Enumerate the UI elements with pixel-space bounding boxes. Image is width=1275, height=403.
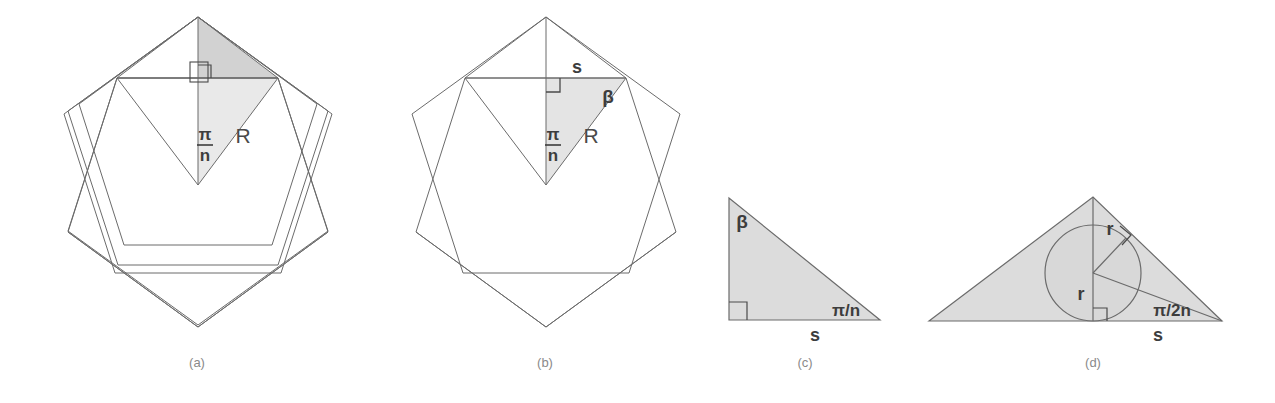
panel-a-inner-diag-left (68, 232, 198, 327)
panel-a-pi-denominator: n (200, 146, 210, 165)
panel-a: π n R (64, 17, 332, 327)
caption-c: (c) (797, 355, 812, 370)
panel-b: s β π n R (412, 17, 680, 327)
panel-a-radius-left (117, 78, 198, 185)
panel-b-pi-denominator: n (548, 146, 558, 165)
panel-c-label-s: s (810, 325, 820, 345)
caption-a: (a) (189, 355, 205, 370)
panel-d-label-s: s (1153, 325, 1163, 345)
panel-b-edge-left-apex (465, 17, 546, 78)
figure-container: π n R s β π n (0, 0, 1275, 403)
panel-b-inner-diag-right (546, 232, 676, 327)
panel-c: β π/n s (729, 198, 880, 345)
panel-a-label-R: R (235, 124, 250, 147)
panel-b-radius-left (465, 78, 546, 185)
panel-d-label-r-lower: r (1077, 284, 1084, 304)
panel-a-inner-diag-right (198, 232, 328, 327)
panel-b-inner-diag-left (416, 232, 546, 327)
panel-b-label-R: R (583, 124, 598, 147)
panel-b-edge-right-apex (546, 17, 626, 78)
geometry-figure-svg: π n R s β π n (0, 0, 1275, 403)
panel-c-label-beta: β (736, 211, 748, 232)
panel-d-label-r-upper: r (1106, 219, 1113, 239)
panel-a-pi-numerator: π (198, 125, 211, 144)
panel-c-label-pi-over-n: π/n (832, 301, 860, 320)
panel-b-pi-numerator: π (546, 125, 559, 144)
panel-b-label-beta: β (602, 86, 614, 107)
caption-d: (d) (1085, 355, 1101, 370)
panel-d: r r π/2n s (929, 197, 1222, 345)
panel-b-label-s: s (572, 57, 582, 77)
panel-d-label-pi-over-2n: π/2n (1153, 301, 1191, 320)
caption-b: (b) (537, 355, 553, 370)
